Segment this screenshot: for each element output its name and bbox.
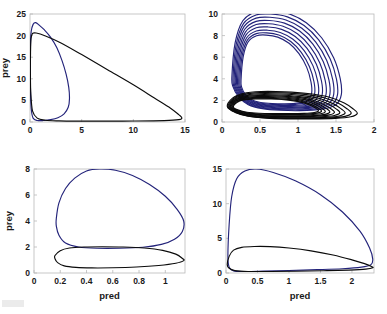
y-tick-label: 25 [17, 9, 27, 19]
x-tick-label: 1 [296, 125, 301, 135]
x-tick-label: 1 [287, 276, 292, 286]
x-tick-label: 0.8 [133, 276, 145, 286]
x-tick-label: 0 [32, 276, 37, 286]
x-tick-label: 0 [220, 125, 225, 135]
x-axis-label: pred [99, 290, 120, 301]
x-tick-label: 10 [129, 125, 139, 135]
x-tick-label: 0.5 [252, 276, 264, 286]
y-tick-label: 15 [17, 52, 27, 62]
y-tick-label: 5 [21, 95, 26, 105]
x-tick-label: 2 [372, 125, 377, 135]
phase-portrait-figure: 0510150510152025prey00.511.52024681000.2… [0, 0, 387, 314]
y-tick-label: 2 [25, 242, 30, 252]
x-tick-label: 1.5 [330, 125, 342, 135]
y-axis-label: prey [3, 210, 14, 231]
y-tick-label: 0 [21, 117, 26, 127]
y-tick-label: 8 [213, 31, 218, 41]
y-tick-label: 15 [213, 164, 223, 174]
x-tick-label: 5 [79, 125, 84, 135]
y-tick-label: 20 [17, 31, 27, 41]
x-tick-label: 0 [28, 125, 33, 135]
y-tick-label: 10 [209, 9, 219, 19]
image-artifact [2, 300, 24, 307]
y-tick-label: 2 [213, 95, 218, 105]
y-tick-label: 0 [25, 268, 30, 278]
y-tick-label: 4 [213, 74, 218, 84]
x-tick-label: 0 [224, 276, 229, 286]
y-tick-label: 4 [25, 216, 30, 226]
x-tick-label: 2 [350, 276, 355, 286]
y-tick-label: 6 [213, 52, 218, 62]
y-tick-label: 6 [25, 190, 30, 200]
x-tick-label: 0.2 [54, 276, 66, 286]
y-axis-label: prey [0, 57, 10, 78]
y-tick-label: 10 [213, 199, 223, 209]
y-tick-label: 5 [217, 233, 222, 243]
panel-bottom-left: 00.20.40.60.8102468predprey [3, 164, 185, 301]
panel-top-left: 0510150510152025prey [0, 9, 190, 135]
x-tick-label: 1.5 [315, 276, 327, 286]
y-tick-label: 0 [213, 117, 218, 127]
panel-bottom-right: 00.511.52051015pred [213, 164, 374, 301]
y-tick-label: 10 [17, 74, 27, 84]
x-tick-label: 0.5 [254, 125, 266, 135]
x-tick-label: 1 [163, 276, 168, 286]
y-tick-label: 8 [25, 164, 30, 174]
x-tick-label: 15 [180, 125, 190, 135]
x-tick-label: 0.6 [107, 276, 119, 286]
figure-container: 0510150510152025prey00.511.52024681000.2… [0, 0, 387, 314]
x-axis-label: pred [290, 290, 311, 301]
axes-frame [30, 14, 185, 122]
y-tick-label: 0 [217, 268, 222, 278]
panel-top-right: 00.511.520246810 [209, 9, 377, 135]
x-tick-label: 0.4 [81, 276, 93, 286]
